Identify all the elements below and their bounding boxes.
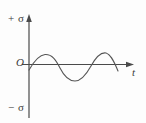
- origin-label: O: [16, 57, 24, 68]
- stress-curve: [29, 53, 118, 81]
- positive-stress-label: + σ: [8, 13, 24, 24]
- time-axis-label: t: [132, 67, 135, 78]
- stress-time-diagram: + σ O − σ t: [0, 0, 146, 123]
- vertical-axis-arrowhead: [26, 14, 32, 22]
- negative-stress-label: − σ: [8, 102, 24, 113]
